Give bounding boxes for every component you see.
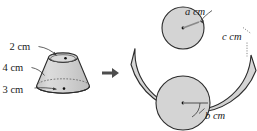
label-bottom-radius: 3 cm (3, 84, 24, 95)
figure-canvas: 2 cm 4 cm 3 cm (0, 0, 257, 131)
label-large-circle-radius: b cm (205, 110, 226, 121)
label-top-radius: 2 cm (10, 41, 31, 52)
frustum-top-inner-rim (51, 55, 76, 62)
frustum-solid: 2 cm 4 cm 3 cm (3, 41, 90, 96)
band-label-leader (243, 28, 251, 34)
label-slant-height: 4 cm (3, 62, 24, 73)
frustum-top-center-dot (64, 57, 67, 60)
label-band-slant: c cm (222, 31, 242, 42)
frustum-bottom-center-dot (63, 87, 66, 90)
label-small-circle-radius: a cm (185, 6, 206, 17)
frustum-net: a cm c cm b cm (131, 6, 256, 131)
right-arrow-icon (102, 68, 119, 78)
geometry-figure: 2 cm 4 cm 3 cm (0, 0, 257, 131)
